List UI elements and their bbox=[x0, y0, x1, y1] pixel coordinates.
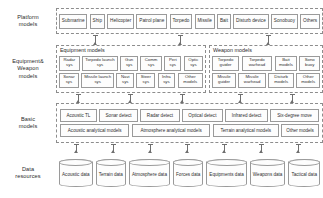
connector-arrow-platform-2 bbox=[180, 35, 181, 44]
node-helicopter[interactable]: Helicopter bbox=[107, 14, 134, 29]
platform-node-list: Submarine Ship Helicopter Patrol plane T… bbox=[59, 14, 320, 29]
connector-arrow-eqw-1 bbox=[78, 94, 79, 102]
datastore-acoustic-data[interactable]: Acoustic data bbox=[59, 159, 93, 187]
node-other-models-weapon[interactable]: Other models bbox=[296, 73, 320, 88]
node-optical-detect[interactable]: Optical detect bbox=[182, 109, 223, 122]
connector-arrow-basic-7 bbox=[298, 144, 299, 152]
node-six-degree-move[interactable]: Six-degree move bbox=[270, 109, 319, 122]
node-torpedo[interactable]: Torpedo bbox=[170, 14, 193, 29]
datastore-label-atmosphere: Atmosphere data bbox=[132, 169, 167, 177]
tier-body-equipment-weapon: Equipment models Radar sys Torpedo launc… bbox=[56, 45, 323, 93]
tier-body-basic: Acoustic TL Sonar detect Radar detect Op… bbox=[56, 103, 323, 143]
connector-arrow-basic-3 bbox=[150, 144, 151, 152]
datastore-equipments-data[interactable]: Equipments data bbox=[206, 159, 247, 187]
tier-label-data-line2: resources bbox=[0, 173, 56, 180]
node-submarine[interactable]: Submarine bbox=[59, 14, 87, 29]
node-others[interactable]: Others bbox=[300, 14, 320, 29]
tier-label-platform-line1: Platform bbox=[0, 14, 56, 21]
node-optic-sys[interactable]: Optic sys bbox=[184, 56, 203, 71]
node-bait[interactable]: Bait bbox=[217, 14, 231, 29]
tier-label-data-line1: Data bbox=[0, 166, 56, 173]
node-atmosphere-analytical-models[interactable]: Atmosphere analytical models bbox=[132, 124, 210, 137]
tier-label-data: Data resources bbox=[0, 166, 56, 180]
weapon-row-1: Torpedo guider Torpedo warhead Bait mode… bbox=[212, 56, 320, 71]
datastore-label-forces: Forces data bbox=[176, 169, 200, 177]
node-comm-sys[interactable]: Comm sys bbox=[140, 56, 161, 71]
datastore-weapons-data[interactable]: Weapons data bbox=[250, 159, 286, 187]
group-weapon-models: Weapon models Torpedo guider Torpedo war… bbox=[209, 45, 323, 93]
group-equipment-models: Equipment models Radar sys Torpedo launc… bbox=[56, 45, 206, 93]
tier-body-platform: Submarine Ship Helicopter Patrol plane T… bbox=[56, 8, 323, 34]
node-missile[interactable]: Missile bbox=[195, 14, 215, 29]
tier-label-basic-line1: Basic bbox=[0, 116, 56, 123]
connector-arrow-eqw-4 bbox=[240, 94, 241, 102]
weapon-row-2: Missile guider Missile warhead Disturb m… bbox=[212, 73, 320, 88]
tier-label-equipment-weapon: Equipment& Weapon models bbox=[0, 58, 56, 79]
node-missile-guider[interactable]: Missile guider bbox=[212, 73, 236, 88]
datastore-label-weapons: Weapons data bbox=[253, 169, 283, 177]
node-ship[interactable]: Ship bbox=[90, 14, 105, 29]
group-title-weapon: Weapon models bbox=[213, 47, 252, 53]
architecture-diagram: Platform models Submarine Ship Helicopte… bbox=[0, 0, 323, 198]
datastore-tactical-data[interactable]: Tactical data bbox=[288, 159, 320, 187]
datastore-label-tactical: Tactical data bbox=[291, 169, 317, 177]
tier-data-resources: Data resources Acoustic data Terrain dat… bbox=[0, 152, 323, 194]
node-bait-models[interactable]: Bait models bbox=[275, 56, 297, 71]
datastore-terrain-data[interactable]: Terrain data bbox=[96, 159, 126, 187]
tier-basic-models: Basic models Acoustic TL Sonar detect Ra… bbox=[0, 103, 323, 143]
datastore-forces-data[interactable]: Forces data bbox=[173, 159, 203, 187]
connector-arrow-eqw-5 bbox=[292, 94, 293, 102]
connector-arrow-basic-1 bbox=[76, 144, 77, 152]
node-acoustic-analytical-models[interactable]: Acoustic analytical models bbox=[60, 124, 129, 137]
connector-arrow-eqw-2 bbox=[130, 94, 131, 102]
node-torpedo-warhead[interactable]: Torpedo warhead bbox=[242, 56, 273, 71]
connector-arrow-basic-4 bbox=[187, 144, 188, 152]
node-steer-sys[interactable]: Steer sys bbox=[136, 73, 155, 88]
node-disturb-device[interactable]: Disturb device bbox=[233, 14, 268, 29]
node-patrol-plane[interactable]: Patrol plane bbox=[136, 14, 167, 29]
data-store-list: Acoustic data Terrain data Atmosphere da… bbox=[56, 159, 323, 187]
tier-platform-models: Platform models Submarine Ship Helicopte… bbox=[0, 8, 323, 34]
connector-arrow-basic-2 bbox=[113, 144, 114, 152]
node-radar-sys[interactable]: Radar sys bbox=[59, 56, 80, 71]
node-torpedo-launch-sys[interactable]: Torpedo launch sys bbox=[82, 56, 118, 71]
node-other-models-basic[interactable]: Other models bbox=[281, 124, 319, 137]
node-sonar-sys[interactable]: Sonar sys bbox=[59, 73, 79, 88]
node-torpedo-guider[interactable]: Torpedo guider bbox=[212, 56, 239, 71]
tier-label-basic: Basic models bbox=[0, 116, 56, 130]
node-sonobuoy[interactable]: Sonobuoy bbox=[271, 14, 298, 29]
node-other-models-equipment[interactable]: Other models bbox=[178, 73, 203, 88]
datastore-label-acoustic: Acoustic data bbox=[62, 169, 90, 177]
tier-label-eqw-line1: Equipment& bbox=[0, 58, 56, 65]
basic-frame: Acoustic TL Sonar detect Radar detect Op… bbox=[56, 103, 323, 143]
platform-frame: Submarine Ship Helicopter Patrol plane T… bbox=[56, 8, 323, 34]
basic-row-1: Acoustic TL Sonar detect Radar detect Op… bbox=[60, 109, 319, 122]
tier-label-platform-line2: models bbox=[0, 21, 56, 28]
node-infrared-detect[interactable]: Infrared detect bbox=[225, 109, 267, 122]
equipment-row-2: Sonar sys Missile launch sys Navi sys St… bbox=[59, 73, 203, 88]
node-radar-detect[interactable]: Radar detect bbox=[140, 109, 179, 122]
node-sonar-detect[interactable]: Sonar detect bbox=[99, 109, 138, 122]
node-peri-sys[interactable]: Peri sys bbox=[164, 56, 181, 71]
node-disturb-models[interactable]: Disturb models bbox=[268, 73, 294, 88]
equipment-row-1: Radar sys Torpedo launch sys Gun sys Com… bbox=[59, 56, 203, 71]
node-sono-buoy[interactable]: Sono buoy bbox=[299, 56, 320, 71]
datastore-atmosphere-data[interactable]: Atmosphere data bbox=[129, 159, 170, 187]
node-acoustic-tl[interactable]: Acoustic TL bbox=[60, 109, 97, 122]
connector-arrow-basic-6 bbox=[261, 144, 262, 152]
node-missile-launch-sys[interactable]: Missile launch sys bbox=[81, 73, 114, 88]
group-title-equipment: Equipment models bbox=[60, 47, 105, 53]
tier-label-eqw-line2: Weapon bbox=[0, 65, 56, 72]
tier-equipment-weapon-models: Equipment& Weapon models Equipment model… bbox=[0, 45, 323, 93]
node-gun-sys[interactable]: Gun sys bbox=[120, 56, 138, 71]
basic-row-2: Acoustic analytical models Atmosphere an… bbox=[60, 124, 319, 137]
connector-arrow-platform-3 bbox=[268, 35, 269, 44]
node-terrain-analytical-models[interactable]: Terrain analytical models bbox=[213, 124, 279, 137]
node-missile-warhead[interactable]: Missile warhead bbox=[238, 73, 265, 88]
connector-arrow-basic-5 bbox=[224, 144, 225, 152]
node-infra-sys[interactable]: Infra sys bbox=[158, 73, 176, 88]
connector-arrow-platform-1 bbox=[95, 35, 96, 44]
node-navi-sys[interactable]: Navi sys bbox=[116, 73, 134, 88]
datastore-label-equipments: Equipments data bbox=[209, 169, 243, 177]
tier-label-platform: Platform models bbox=[0, 14, 56, 28]
